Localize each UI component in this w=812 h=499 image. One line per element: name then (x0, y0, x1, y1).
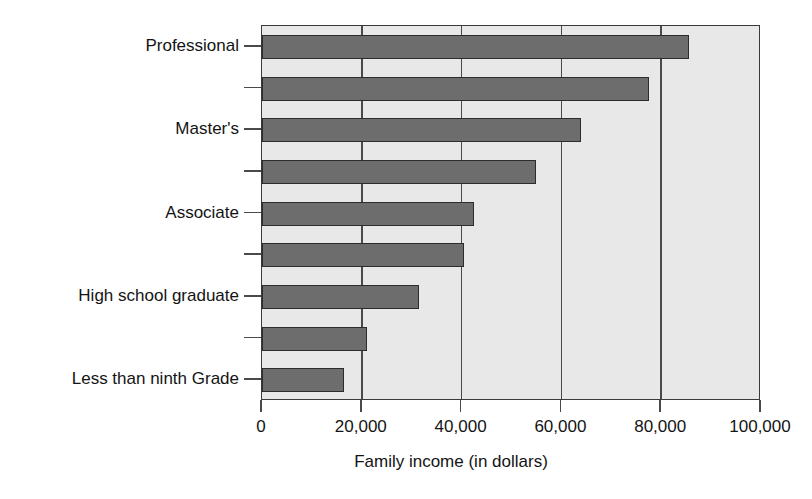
x-axis-tick-label: 0 (256, 418, 265, 436)
x-axis-tick-label: 100,000 (729, 418, 790, 436)
y-axis-tick (244, 295, 261, 297)
bar (262, 202, 474, 226)
x-axis-tick-label: 60,000 (534, 418, 586, 436)
bar (262, 243, 464, 267)
x-axis-title: Family income (in dollars) (0, 452, 812, 472)
y-axis-category-label: Less than ninth Grade (0, 370, 239, 388)
gridline (660, 26, 662, 399)
x-axis-tick (360, 400, 362, 412)
y-axis-tick (244, 212, 261, 214)
y-axis-tick (244, 45, 261, 47)
bar (262, 285, 419, 309)
y-axis-category-label: Associate (0, 204, 239, 222)
bar (262, 327, 367, 351)
bar (262, 35, 689, 59)
x-axis-tick (560, 400, 562, 412)
x-axis-tick (759, 400, 761, 412)
y-axis-tick (244, 337, 261, 339)
y-axis-tick (244, 87, 261, 89)
x-axis-tick (659, 400, 661, 412)
x-axis-tick (460, 400, 462, 412)
y-axis-tick (244, 253, 261, 255)
y-axis-category-label: Master's (0, 120, 239, 138)
x-axis-tick (260, 400, 262, 412)
bar (262, 77, 649, 101)
bar (262, 160, 536, 184)
x-axis-tick-label: 20,000 (335, 418, 387, 436)
x-axis-title-text: Family income (in dollars) (354, 452, 548, 472)
bar (262, 118, 581, 142)
y-axis-tick (244, 128, 261, 130)
x-axis-tick-label: 80,000 (634, 418, 686, 436)
y-axis-tick (244, 378, 261, 380)
y-axis-category-label: Professional (0, 37, 239, 55)
y-axis-category-label: High school graduate (0, 287, 239, 305)
bar-chart-figure: ProfessionalMaster'sAssociateHigh school… (0, 0, 812, 499)
x-axis-tick-label: 40,000 (435, 418, 487, 436)
bar (262, 368, 344, 392)
plot-area (261, 25, 760, 400)
y-axis-tick (244, 170, 261, 172)
